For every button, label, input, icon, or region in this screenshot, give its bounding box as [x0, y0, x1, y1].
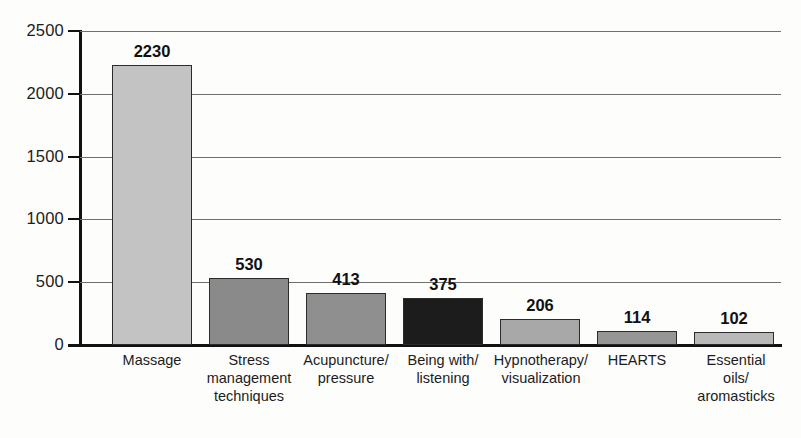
bar-value-acupuncture-pressure: 413	[306, 270, 386, 289]
bar-hypnotherapy-visualization[interactable]	[500, 319, 580, 345]
category-label-line: Hypnotherapy/	[485, 351, 597, 369]
y-tick-label-1500: 1500	[4, 147, 64, 166]
y-tick-label-2500: 2500	[4, 21, 64, 40]
bar-chart: 2500 2000 1500 1000 500 0 2230 530 413 3…	[0, 0, 801, 438]
category-label-line: oils/	[684, 369, 788, 387]
category-label-line: HEARTS	[587, 351, 687, 369]
category-label-line: aromasticks	[684, 387, 788, 405]
category-label-line: listening	[390, 369, 496, 387]
y-tick-label-0: 0	[4, 335, 64, 354]
bar-value-hypnotherapy-visualization: 206	[500, 296, 580, 315]
bar-value-essential-oils-aromasticks: 102	[694, 309, 774, 328]
category-label-line: management	[195, 369, 303, 387]
category-label-hypnotherapy-visualization: Hypnotherapy/ visualization	[485, 351, 597, 387]
bar-hearts[interactable]	[597, 331, 677, 345]
bar-value-hearts: 114	[597, 308, 677, 327]
category-label-line: visualization	[485, 369, 597, 387]
bar-being-with-listening[interactable]	[403, 298, 483, 345]
y-tick-label-500: 500	[4, 272, 64, 291]
category-label-line: Stress	[195, 351, 303, 369]
bar-acupuncture-pressure[interactable]	[306, 293, 386, 345]
category-label-essential-oils-aromasticks: Essential oils/ aromasticks	[684, 351, 788, 405]
category-label-line: pressure	[293, 369, 399, 387]
y-tick-label-2000: 2000	[4, 84, 64, 103]
bar-massage[interactable]	[112, 65, 192, 345]
category-label-line: Being with/	[390, 351, 496, 369]
bar-essential-oils-aromasticks[interactable]	[694, 332, 774, 345]
bar-stress-management-techniques[interactable]	[209, 278, 289, 345]
gridline-2500	[80, 31, 781, 32]
category-label-massage: Massage	[102, 351, 202, 369]
category-label-stress-management-techniques: Stress management techniques	[195, 351, 303, 405]
bar-value-stress-management-techniques: 530	[209, 255, 289, 274]
category-label-hearts: HEARTS	[587, 351, 687, 369]
category-label-line: Massage	[102, 351, 202, 369]
category-label-being-with-listening: Being with/ listening	[390, 351, 496, 387]
bar-value-massage: 2230	[112, 42, 192, 61]
bar-value-being-with-listening: 375	[403, 275, 483, 294]
category-label-line: techniques	[195, 387, 303, 405]
y-axis-tick-labels: 2500 2000 1500 1000 500 0	[0, 0, 64, 438]
category-label-acupuncture-pressure: Acupuncture/ pressure	[293, 351, 399, 387]
category-label-line: Acupuncture/	[293, 351, 399, 369]
y-tick-label-1000: 1000	[4, 209, 64, 228]
category-label-line: Essential	[684, 351, 788, 369]
plot-area	[80, 31, 781, 345]
